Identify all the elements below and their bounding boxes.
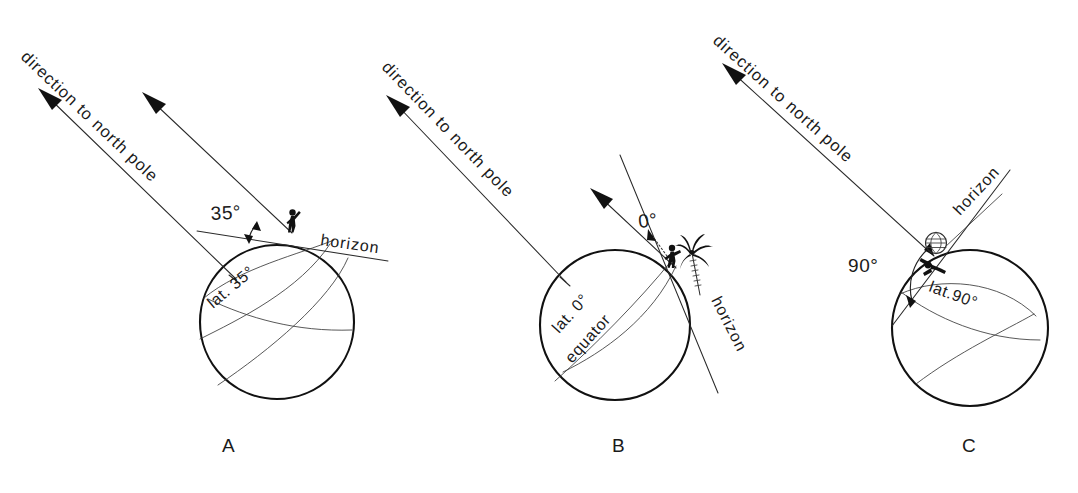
latitude-diagram: direction to north pole 35° horizon lat.… — [0, 0, 1078, 493]
globe-outline-a — [200, 245, 354, 399]
observer-figure-b — [665, 245, 682, 268]
observer-figure-a — [287, 209, 301, 232]
pole-direction-label-a: direction to north pole — [18, 47, 162, 185]
pole-arrow-shaft-b2 — [599, 196, 676, 268]
pole-arrow-shaft-a1 — [48, 97, 236, 279]
horizon-label-a: horizon — [320, 231, 381, 256]
panel-caption-b: B — [612, 435, 625, 456]
horizon-line-b — [620, 155, 718, 393]
angle-label-c: 90° — [848, 255, 879, 276]
panel-c: direction to north pole 90° horizon lat.… — [710, 31, 1048, 456]
pole-arrow-shaft-c — [732, 72, 934, 256]
palm-tree-icon-b — [675, 234, 713, 295]
pole-direction-label-c: direction to north pole — [710, 31, 857, 166]
small-globe-icon-c — [926, 233, 947, 254]
horizon-label-b: horizon — [708, 294, 750, 355]
latitude-label-a: lat. 35° — [204, 263, 258, 312]
pole-arrow-shaft-b1 — [396, 104, 566, 282]
panel-caption-c: C — [962, 435, 976, 456]
angle-arc-tip2-a — [252, 221, 261, 231]
panel-b: direction to north pole 0° horizon lat. … — [379, 58, 751, 456]
angle-label-a: 35° — [210, 201, 242, 224]
latitude-label-c: lat.90° — [927, 278, 980, 311]
panel-caption-a: A — [222, 435, 235, 456]
pole-arrow-tick-b — [560, 277, 570, 286]
angle-label-b: 0° — [637, 209, 658, 232]
meridian-c — [916, 314, 1034, 384]
figure-root: direction to north pole 35° horizon lat.… — [0, 0, 1078, 493]
panel-a: direction to north pole 35° horizon lat.… — [18, 47, 388, 456]
latitude-curve-back-a — [208, 299, 352, 330]
pole-direction-label-b: direction to north pole — [379, 58, 518, 201]
